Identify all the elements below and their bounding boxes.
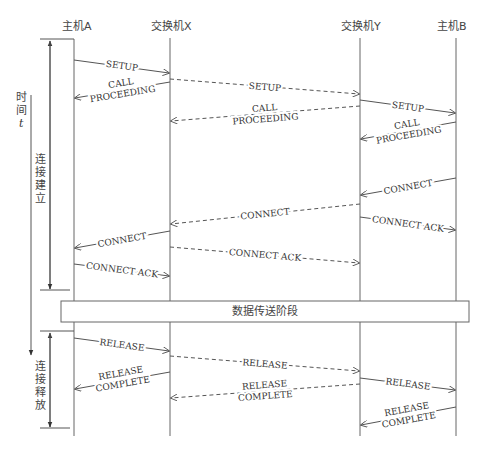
svg-text:建: 建	[35, 178, 46, 192]
message-label-connect-ack-y-b: CONNECT ACK	[371, 214, 444, 234]
sequence-diagram: 主机A 交换机X 交换机Y 主机B 时 间 t 连 接 建 立	[0, 0, 489, 456]
message-label-connect-ack-a-x: CONNECT ACK	[85, 260, 158, 279]
message-label-connect-ack-x-y: CONNECT ACK	[228, 247, 301, 263]
svg-text:连: 连	[35, 153, 46, 166]
svg-text:连: 连	[35, 360, 46, 373]
entity-label-host-a: 主机A	[62, 19, 92, 33]
setup-phase-label: 连 接 建 立	[35, 153, 46, 205]
entity-label-host-b: 主机B	[437, 19, 467, 33]
svg-text:接: 接	[35, 166, 46, 179]
svg-text:释: 释	[35, 386, 46, 399]
svg-text:放: 放	[35, 398, 46, 412]
time-axis-label: 时 间 t	[16, 91, 27, 130]
data-transfer-phase-label: 数据传送阶段	[232, 304, 298, 318]
message-label-release-y-b: RELEASE	[385, 376, 431, 392]
svg-text:t: t	[19, 117, 24, 130]
svg-text:间: 间	[16, 104, 27, 117]
entity-label-switch-y: 交换机Y	[341, 19, 381, 33]
message-label-call-y-x: CALL	[252, 102, 278, 114]
message-label-connect-y-x: CONNECT	[240, 206, 290, 221]
message-label-release-a-x: RELEASE	[99, 337, 145, 353]
message-label-connect-b-y: CONNECT	[383, 178, 433, 196]
release-phase-label: 连 接 释 放	[35, 360, 46, 412]
message-label-connect-x-a: CONNECT	[97, 231, 147, 249]
svg-text:接: 接	[35, 373, 46, 386]
message-label-setup-x-y: SETUP	[248, 81, 281, 94]
svg-text:时: 时	[16, 91, 27, 104]
message-label-proceeding-y-x: PROCEEDING	[232, 111, 299, 126]
svg-text:立: 立	[35, 191, 46, 205]
entity-label-switch-x: 交换机X	[151, 19, 192, 33]
message-label-release-x-y: RELEASE	[242, 357, 288, 371]
message-label-setup-a-x: SETUP	[105, 59, 138, 73]
message-label-setup-y-b: SETUP	[391, 100, 424, 114]
